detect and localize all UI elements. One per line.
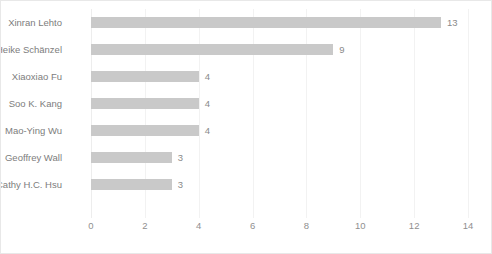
bar-value-label: 4 <box>205 94 210 113</box>
bar[interactable] <box>91 98 199 109</box>
category-label: Xinran Lehto <box>0 12 62 33</box>
x-tick-label: 14 <box>463 220 474 231</box>
category-label: Mao-Ying Wu <box>0 120 62 141</box>
x-tick-label: 4 <box>196 220 201 231</box>
x-tick-label: 10 <box>355 220 366 231</box>
bar-value-label: 4 <box>205 121 210 140</box>
x-tick-label: 0 <box>88 220 93 231</box>
bar-chart: Xinran Lehto13Heike Schänzel9Xiaoxiao Fu… <box>0 0 492 254</box>
bar-row: Heike Schänzel9 <box>91 36 468 63</box>
bar[interactable] <box>91 44 333 55</box>
category-label: Soo K. Kang <box>0 93 62 114</box>
bar-value-label: 13 <box>447 13 458 32</box>
bar[interactable] <box>91 125 199 136</box>
x-tick-label: 6 <box>250 220 255 231</box>
bar-row: Mao-Ying Wu4 <box>91 117 468 144</box>
plot-area: Xinran Lehto13Heike Schänzel9Xiaoxiao Fu… <box>91 9 468 218</box>
category-label: Heike Schänzel <box>0 39 62 60</box>
bar-row: Xinran Lehto13 <box>91 9 468 36</box>
category-label: Xiaoxiao Fu <box>0 66 62 87</box>
bar-value-label: 9 <box>339 40 344 59</box>
x-tick-label: 12 <box>409 220 420 231</box>
bar-row: Geoffrey Wall3 <box>91 144 468 171</box>
bar-row: Soo K. Kang4 <box>91 90 468 117</box>
category-label: Cathy H.C. Hsu <box>0 174 62 195</box>
x-tick-label: 8 <box>304 220 309 231</box>
bar[interactable] <box>91 71 199 82</box>
gridline-14 <box>468 9 469 218</box>
bar-row: Xiaoxiao Fu4 <box>91 63 468 90</box>
bar-value-label: 3 <box>178 175 183 194</box>
bar[interactable] <box>91 152 172 163</box>
bar[interactable] <box>91 17 441 28</box>
bar-row: Cathy H.C. Hsu3 <box>91 171 468 198</box>
x-axis: 02468101214 <box>91 220 468 240</box>
x-tick-label: 2 <box>142 220 147 231</box>
bar-value-label: 4 <box>205 67 210 86</box>
category-label: Geoffrey Wall <box>0 147 62 168</box>
bar[interactable] <box>91 179 172 190</box>
bar-value-label: 3 <box>178 148 183 167</box>
